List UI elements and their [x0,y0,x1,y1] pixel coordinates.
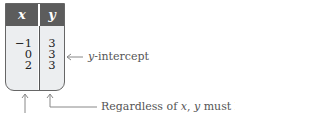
y-intercept-text: -intercept [94,50,149,63]
text-part: Regardless of [101,100,181,113]
text-part: , [187,100,194,113]
text-part: must be 3. [200,100,235,113]
regardless-label: Regardless of x, y must be 3. [101,100,235,113]
y-intercept-label: y-intercept [88,50,149,63]
